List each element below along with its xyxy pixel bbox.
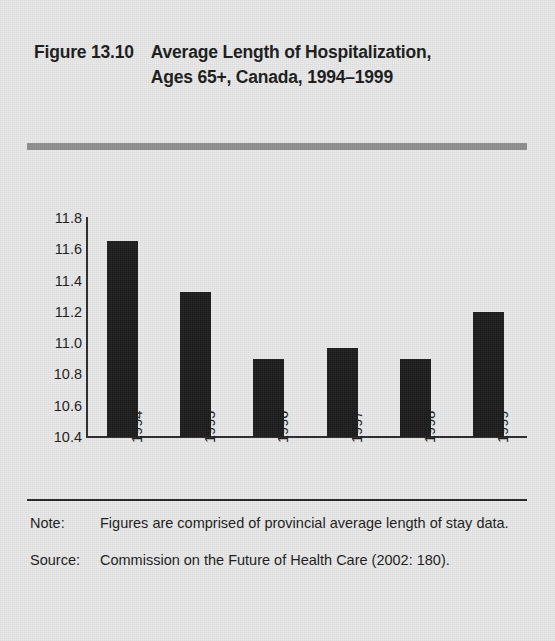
- x-tick-label: 1998: [400, 442, 431, 459]
- note-label: Note:: [30, 512, 100, 534]
- y-tick-label: 10.6: [54, 399, 82, 413]
- note-row: Note: Figures are comprised of provincia…: [30, 512, 530, 534]
- notes-divider-black: [27, 499, 527, 501]
- bar-1994: [107, 241, 138, 437]
- x-tick-label-text: 1999: [495, 411, 511, 443]
- figure-chart-area: Figure 13.10 Average Length of Hospitali…: [0, 0, 555, 500]
- y-axis-tick-labels: 11.811.611.411.211.010.810.610.4: [34, 210, 82, 445]
- title-divider-gray: [27, 143, 527, 150]
- note-text: Figures are comprised of provincial aver…: [100, 512, 509, 534]
- x-tick-label: 1995: [180, 442, 211, 459]
- x-tick-label-text: 1997: [349, 411, 365, 443]
- figure-notes: Note: Figures are comprised of provincia…: [30, 512, 530, 586]
- source-row: Source: Commission on the Future of Heal…: [30, 549, 530, 571]
- x-tick-label-text: 1998: [422, 411, 438, 443]
- x-tick-label: 1999: [473, 442, 504, 459]
- y-tick-label: 11.8: [55, 211, 82, 225]
- figure-number: Figure 13.10: [34, 40, 134, 65]
- y-tick-label: 11.4: [55, 274, 82, 288]
- y-tick-label: 11.6: [55, 242, 82, 256]
- y-tick-label: 11.0: [55, 336, 82, 350]
- page-title: Average Length of Hospitalization, Ages …: [151, 40, 461, 90]
- y-tick-label: 10.8: [54, 367, 82, 381]
- x-tick-label: 1996: [253, 442, 284, 459]
- figure-title-block: Figure 13.10 Average Length of Hospitali…: [34, 40, 534, 90]
- x-tick-label-text: 1996: [275, 411, 291, 443]
- x-tick-label: 1997: [327, 442, 358, 459]
- x-axis-tick-labels: 199419951996199719981999: [88, 442, 527, 492]
- y-tick-label: 10.4: [54, 430, 82, 444]
- x-tick-label-text: 1995: [202, 411, 218, 443]
- y-tick-label: 11.2: [55, 305, 82, 319]
- x-tick-label: 1994: [107, 442, 138, 459]
- source-label: Source:: [30, 549, 100, 571]
- source-text: Commission on the Future of Health Care …: [100, 549, 450, 571]
- plot-bars: [88, 218, 527, 437]
- x-tick-label-text: 1994: [129, 411, 145, 443]
